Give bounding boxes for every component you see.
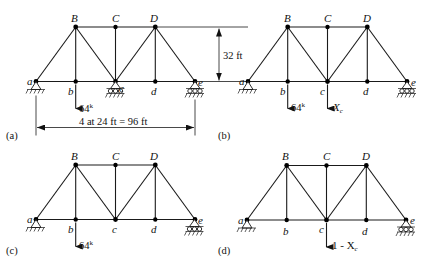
node-label-a: a xyxy=(27,213,33,225)
panel-d xyxy=(237,163,415,247)
height-dimension-label: 32 ft xyxy=(223,50,243,61)
node-label-a: a xyxy=(27,75,33,87)
node-label-c: c xyxy=(119,82,124,94)
node-label-C: C xyxy=(324,12,332,24)
node-label-D: D xyxy=(362,12,371,24)
node-label-b: b xyxy=(283,225,289,237)
node-label-d: d xyxy=(363,85,369,97)
node-label-c: c xyxy=(319,223,324,235)
span-dimension-label: 4 at 24 ft = 96 ft xyxy=(79,116,147,127)
node-label-c: c xyxy=(320,85,325,97)
node-label-a: a xyxy=(239,75,245,87)
node-label-b: b xyxy=(68,223,74,235)
caption-b: (b) xyxy=(218,130,231,142)
truss-figure: a b c d e B C D 64k 4 at 24 ft = 96 ft 3… xyxy=(0,0,430,269)
truss-b xyxy=(246,25,410,84)
caption-a: (a) xyxy=(6,130,18,142)
panel-b xyxy=(238,25,416,109)
load-label-64: 64k xyxy=(79,102,94,114)
node-label-B: B xyxy=(282,150,289,162)
node-label-d: d xyxy=(151,223,157,235)
node-label-D: D xyxy=(361,150,370,162)
caption-d: (d) xyxy=(218,245,231,257)
node-label-C: C xyxy=(112,12,120,24)
caption-c: (c) xyxy=(6,245,18,257)
node-label-B: B xyxy=(284,12,291,24)
node-label-d: d xyxy=(362,225,368,237)
node-label-C: C xyxy=(323,150,331,162)
node-label-D: D xyxy=(149,150,158,162)
node-label-B: B xyxy=(71,150,78,162)
node-label-d: d xyxy=(151,85,157,97)
node-label-b: b xyxy=(68,85,74,97)
node-label-B: B xyxy=(71,12,78,24)
node-label-D: D xyxy=(149,12,158,24)
node-label-c: c xyxy=(112,223,117,235)
truss-d xyxy=(245,163,409,222)
node-label-e: e xyxy=(411,76,416,88)
load-label-64: 64k xyxy=(79,239,94,251)
node-label-e: e xyxy=(410,214,415,226)
truss-a xyxy=(34,25,198,84)
node-label-a: a xyxy=(238,214,244,226)
load-label-one-minus-xc: 1 - Xc xyxy=(332,239,359,253)
node-label-e: e xyxy=(198,76,203,88)
node-label-C: C xyxy=(112,150,120,162)
node-label-e: e xyxy=(198,214,203,226)
load-label-64: 64k xyxy=(291,101,306,113)
node-label-b: b xyxy=(280,85,286,97)
truss-c xyxy=(34,163,198,222)
load-label-xc: Xc xyxy=(332,101,344,115)
